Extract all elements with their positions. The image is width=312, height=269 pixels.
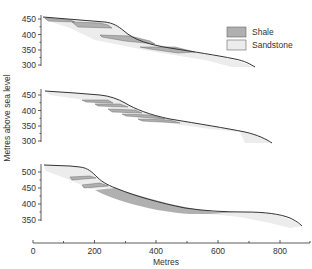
profile-3: 500 450 400 350 [22,164,302,228]
sandstone-swatch [227,40,246,50]
profile-1-y-tick-label: 350 [22,45,36,55]
profile-2-shale-bed [82,100,113,103]
x-axis [33,240,310,243]
x-tick-label: 200 [87,246,101,256]
profile-3-y-tick-label: 350 [22,215,36,225]
legend-item-sandstone: Sandstone [227,40,293,50]
x-tick-label: 800 [273,246,287,256]
x-tick-label: 400 [149,246,163,256]
profile-2-sandstone [45,91,272,143]
profile-2-y-axis [38,89,41,142]
profile-2-y-tick-label: 450 [22,90,36,100]
profile-2: 450 400 350 300 [22,89,272,146]
profile-1-y-tick-label: 450 [22,14,36,24]
profile-1-y-tick-label: 300 [22,60,36,70]
profile-1-y-tick-label: 400 [22,30,36,40]
x-axis-title: Metres [153,257,179,267]
shale-swatch [227,27,246,37]
profile-2-y-tick-label: 350 [22,121,36,131]
legend-label-sandstone: Sandstone [252,40,293,50]
profile-3-shale-main [95,188,235,214]
y-axis-title: Metres above sea level [2,74,12,162]
legend-item-shale: Shale [227,27,274,37]
cross-section-figure: 450 400 350 300 450 400 350 300 [0,0,312,269]
profile-3-y-tick-label: 500 [22,167,36,177]
profile-3-y-axis [38,164,41,221]
profile-1-y-axis [38,15,41,66]
legend: Shale Sandstone [227,27,293,50]
profile-2-y-tick-label: 300 [22,136,36,146]
profile-3-y-tick-label: 450 [22,183,36,193]
profile-3-y-tick-label: 400 [22,199,36,209]
profile-3-sandstone [205,212,302,228]
legend-label-shale: Shale [252,27,274,37]
x-tick-label: 600 [211,246,225,256]
profile-1: 450 400 350 300 [22,14,255,70]
x-tick-label: 0 [31,246,36,256]
profile-2-y-tick-label: 400 [22,106,36,116]
